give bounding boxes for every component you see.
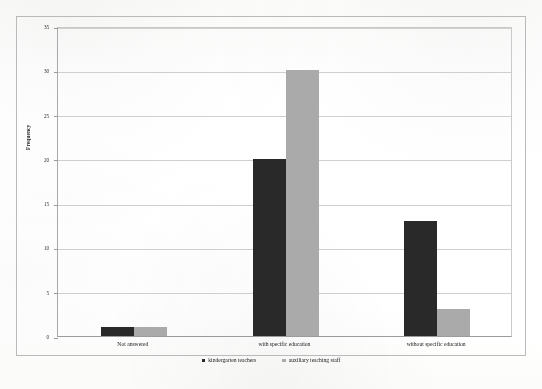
legend-label: kindergarten teachers	[208, 357, 256, 364]
y-axis-title: Frequency	[25, 125, 31, 150]
figure: Frequency kindergarten teachersauxiliary…	[0, 0, 542, 389]
x-axis-category-label: Not answered	[57, 341, 209, 348]
legend-swatch-icon	[282, 359, 286, 363]
y-axis-tick	[54, 338, 58, 339]
y-axis-tick	[54, 72, 58, 73]
bar-auxiliary-teaching-staff	[286, 70, 319, 336]
x-axis-category-label: without specific education	[360, 341, 512, 348]
y-axis-tick	[54, 28, 58, 29]
bar-kindergarten-teachers	[404, 221, 437, 336]
y-axis-tick	[54, 160, 58, 161]
chart-legend: kindergarten teachersauxiliary teaching …	[0, 357, 542, 364]
y-axis-tick-label: 35	[0, 24, 49, 30]
x-axis-category-label: with specific education	[209, 341, 361, 348]
bar-kindergarten-teachers	[253, 159, 286, 336]
plot-area	[57, 27, 512, 337]
y-axis-tick	[54, 205, 58, 206]
y-axis-tick-label: 0	[0, 334, 49, 340]
gridline	[58, 72, 511, 73]
y-axis-tick-label: 5	[0, 290, 49, 296]
y-axis-tick-label: 25	[0, 113, 49, 119]
y-axis-tick-label: 15	[0, 201, 49, 207]
gridline	[58, 116, 511, 117]
gridline	[58, 28, 511, 29]
y-axis-tick-label: 10	[0, 245, 49, 251]
bar-kindergarten-teachers	[101, 327, 134, 336]
y-axis-tick	[54, 116, 58, 117]
legend-item: kindergarten teachers	[202, 357, 256, 364]
y-axis-tick	[54, 249, 58, 250]
y-axis-tick	[54, 293, 58, 294]
legend-swatch-icon	[202, 359, 206, 363]
legend-label: auxiliary teaching staff	[289, 357, 340, 364]
bar-auxiliary-teaching-staff	[134, 327, 167, 336]
y-axis-tick-label: 20	[0, 157, 49, 163]
y-axis-tick-label: 30	[0, 68, 49, 74]
bar-auxiliary-teaching-staff	[437, 309, 470, 336]
legend-item: auxiliary teaching staff	[282, 357, 340, 364]
